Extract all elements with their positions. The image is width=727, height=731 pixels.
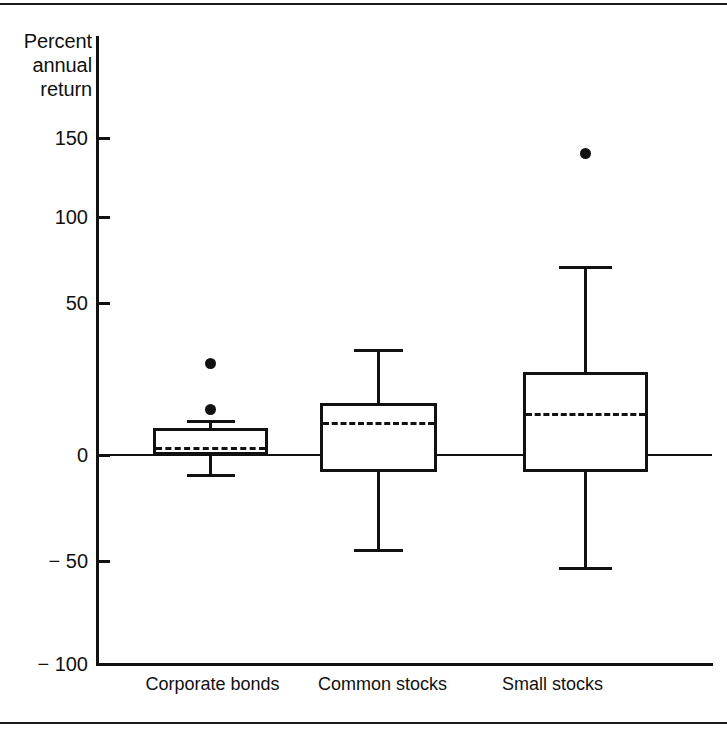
y-axis-line [96, 36, 99, 666]
whisker-cap-lower-corporate-bonds [187, 474, 235, 477]
whisker-lower-common-stocks [377, 472, 380, 549]
y-tick-mark-0 [96, 454, 110, 457]
outlier-point-small-stocks-0 [580, 148, 591, 159]
x-tick-label-small-stocks: Small stocks [470, 674, 635, 694]
whisker-lower-corporate-bonds [209, 455, 212, 474]
y-tick-label-50: 50 [6, 293, 88, 313]
bottom-divider-rule [0, 722, 727, 724]
median-line-small-stocks [526, 413, 645, 416]
whisker-cap-lower-common-stocks [354, 549, 403, 552]
x-tick-label-corporate-bonds: Corporate bonds [130, 674, 295, 694]
y-tick-label-150: 150 [6, 128, 88, 148]
y-axis-title-line-3: return [6, 77, 92, 101]
whisker-cap-lower-small-stocks [559, 567, 612, 570]
y-tick-mark-minus-50 [96, 560, 110, 563]
outlier-point-corporate-bonds-0 [205, 404, 216, 415]
outlier-point-corporate-bonds-1 [205, 358, 216, 369]
boxplot-figure: Percent annual return 150 100 50 0 − 50 … [0, 0, 727, 731]
whisker-upper-common-stocks [377, 349, 380, 403]
whisker-upper-small-stocks [584, 266, 587, 372]
y-tick-mark-150 [96, 137, 110, 140]
y-tick-label-minus-50: − 50 [6, 551, 88, 571]
y-axis-title-line-2: annual [6, 53, 92, 77]
whisker-cap-upper-small-stocks [559, 266, 612, 269]
box-iqr-small-stocks [523, 372, 648, 472]
y-tick-mark-100 [96, 216, 110, 219]
whisker-cap-upper-corporate-bonds [187, 420, 235, 423]
x-axis-line [96, 663, 713, 666]
top-divider-rule [0, 3, 727, 5]
y-tick-mark-50 [96, 302, 110, 305]
y-axis-title-line-1: Percent [6, 29, 92, 53]
y-tick-label-minus-100: − 100 [6, 654, 88, 674]
box-iqr-common-stocks [320, 403, 437, 472]
whisker-lower-small-stocks [584, 472, 587, 568]
whisker-cap-upper-common-stocks [354, 349, 403, 352]
box-iqr-corporate-bonds [153, 428, 268, 455]
x-tick-label-common-stocks: Common stocks [300, 674, 465, 694]
median-line-common-stocks [323, 422, 434, 425]
y-tick-label-100: 100 [6, 207, 88, 227]
y-tick-label-0: 0 [6, 445, 88, 465]
median-line-corporate-bonds [156, 447, 265, 450]
y-axis-title: Percent annual return [6, 29, 92, 101]
